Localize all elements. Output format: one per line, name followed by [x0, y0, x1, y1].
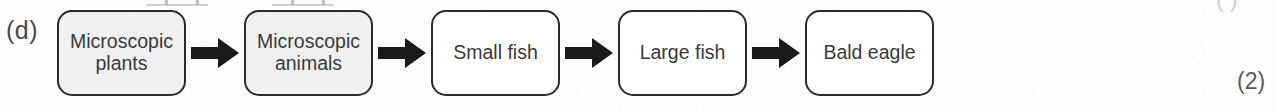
chain-node-bald-eagle: Bald eagle — [805, 10, 934, 96]
chain-arrow-4 — [747, 10, 805, 96]
chain-node-label: Bald eagle — [817, 42, 921, 64]
block-arrow-right-icon — [378, 38, 426, 68]
figure-panel: (d) Microscopicplants Microscopicanimals… — [0, 0, 1276, 111]
chain-node-label: Small fish — [447, 42, 544, 64]
chain-arrow-2 — [373, 10, 431, 96]
cropped-marks-fragment: ( ) — [1216, 0, 1238, 13]
block-arrow-right-icon — [191, 38, 239, 68]
block-arrow-right-icon — [752, 38, 800, 68]
chain-arrow-1 — [186, 10, 244, 96]
chain-node-label: Large fish — [634, 42, 732, 64]
block-arrow-right-icon — [565, 38, 613, 68]
marks-allocation: (2) — [1237, 68, 1265, 95]
chain-node-small-fish: Small fish — [431, 10, 560, 96]
chain-arrow-3 — [560, 10, 618, 96]
part-label: (d) — [6, 16, 38, 45]
cropped-text-rule — [146, 4, 208, 6]
chain-node-label: Microscopicplants — [64, 31, 179, 75]
chain-node-label: Microscopicanimals — [251, 31, 366, 75]
chain-node-microscopic-animals: Microscopicanimals — [244, 10, 373, 96]
chain-node-large-fish: Large fish — [618, 10, 747, 96]
chain-node-microscopic-plants: Microscopicplants — [57, 10, 186, 96]
cropped-text-rule — [272, 4, 334, 6]
food-chain-flow: Microscopicplants Microscopicanimals Sma… — [57, 10, 934, 96]
